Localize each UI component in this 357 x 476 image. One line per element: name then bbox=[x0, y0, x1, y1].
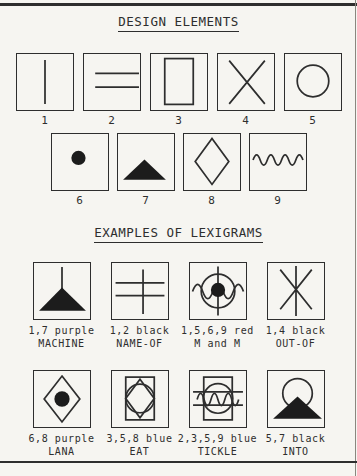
vertical-line-diagonal-cross-icon bbox=[268, 263, 324, 319]
design-elements-row-1: 1 2 3 4 bbox=[0, 53, 357, 127]
lexigram-name: NAME-OF bbox=[116, 337, 162, 350]
lexigram-eat: 3,5,8 blue EAT bbox=[111, 370, 169, 458]
lexigram-label: 3,5,8 blue EAT bbox=[111, 432, 169, 458]
lexigram-name: M and M bbox=[194, 337, 240, 350]
lexigram-box bbox=[189, 370, 247, 428]
vertical-line-two-horizontals-icon bbox=[112, 263, 168, 319]
lexigram-box bbox=[267, 262, 325, 320]
element-number: 1 bbox=[41, 115, 48, 127]
lexigram-box bbox=[33, 262, 91, 320]
lexigrams-row-2: 6,8 purple LANA 3,5,8 blue EAT bbox=[0, 370, 357, 458]
element-number: 9 bbox=[274, 195, 281, 207]
element-number: 5 bbox=[309, 115, 316, 127]
lexigrams-row-1: 1,7 purple MACHINE 1,2 black NAME-OF bbox=[0, 262, 357, 350]
lexigram-elements: 1,2 black bbox=[110, 324, 170, 337]
element-number: 8 bbox=[208, 195, 215, 207]
lexigram-elements: 6,8 purple bbox=[28, 432, 94, 445]
lexigram-name: TICKLE bbox=[198, 445, 238, 458]
element-box-7 bbox=[117, 133, 175, 191]
rect-circle-diamond-icon bbox=[112, 371, 168, 427]
lexigram-elements: 5,7 black bbox=[266, 432, 326, 445]
design-element-2: 2 bbox=[83, 53, 141, 127]
lexigram-box bbox=[189, 262, 247, 320]
element-number: 4 bbox=[242, 115, 249, 127]
two-horizontal-lines-icon bbox=[84, 54, 140, 110]
lexigram-elements: 2,3,5,9 blue bbox=[178, 432, 257, 445]
diagonal-cross-icon bbox=[218, 54, 274, 110]
lexigram-m-and-m: 1,5,6,9 red M and M bbox=[189, 262, 247, 350]
filled-dot-icon bbox=[52, 134, 108, 190]
element-number: 2 bbox=[108, 115, 115, 127]
circle-dot-line-wave-icon bbox=[190, 263, 246, 319]
lexigram-lana: 6,8 purple LANA bbox=[33, 370, 91, 458]
lexigram-label: 1,4 black OUT-OF bbox=[267, 324, 325, 350]
lexigram-label: 5,7 black INTO bbox=[267, 432, 325, 458]
lexigram-elements: 1,7 purple bbox=[28, 324, 94, 337]
lexigram-machine: 1,7 purple MACHINE bbox=[33, 262, 91, 350]
lexigram-name: INTO bbox=[282, 445, 308, 458]
diamond-with-dot-icon bbox=[34, 371, 90, 427]
vertical-line-icon bbox=[17, 54, 73, 110]
lexigram-out-of: 1,4 black OUT-OF bbox=[267, 262, 325, 350]
lexigram-elements: 1,4 black bbox=[266, 324, 326, 337]
lexigram-label: 2,3,5,9 blue TICKLE bbox=[189, 432, 247, 458]
lexigram-figure: DESIGN ELEMENTS 1 2 bbox=[0, 0, 357, 476]
circle-outline-icon bbox=[285, 54, 341, 110]
lexigram-label: 6,8 purple LANA bbox=[33, 432, 91, 458]
wavy-line-icon bbox=[250, 134, 306, 190]
design-element-9: 9 bbox=[249, 133, 307, 207]
design-element-8: 8 bbox=[183, 133, 241, 207]
rect-circle-lines-wave-icon bbox=[190, 371, 246, 427]
lexigram-name: OUT-OF bbox=[276, 337, 316, 350]
top-rule bbox=[0, 3, 357, 6]
lexigram-box bbox=[33, 370, 91, 428]
lexigram-elements: 3,5,8 blue bbox=[106, 432, 172, 445]
design-element-4: 4 bbox=[217, 53, 275, 127]
filled-triangle-icon bbox=[118, 134, 174, 190]
line-and-filled-triangle-icon bbox=[34, 263, 90, 319]
circle-with-filled-triangle-icon bbox=[268, 371, 324, 427]
element-box-5 bbox=[284, 53, 342, 111]
lexigram-name: EAT bbox=[130, 445, 150, 458]
lexigram-box bbox=[111, 262, 169, 320]
element-box-8 bbox=[183, 133, 241, 191]
lexigrams-title: EXAMPLES OF LEXIGRAMS bbox=[0, 225, 357, 243]
lexigram-name: MACHINE bbox=[38, 337, 84, 350]
design-elements-title: DESIGN ELEMENTS bbox=[0, 14, 357, 32]
lexigram-label: 1,7 purple MACHINE bbox=[33, 324, 91, 350]
lexigram-tickle: 2,3,5,9 blue TICKLE bbox=[189, 370, 247, 458]
element-box-4 bbox=[217, 53, 275, 111]
design-element-5: 5 bbox=[284, 53, 342, 127]
lexigram-into: 5,7 black INTO bbox=[267, 370, 325, 458]
lexigram-name: LANA bbox=[48, 445, 74, 458]
lexigram-box bbox=[111, 370, 169, 428]
lexigram-label: 1,5,6,9 red M and M bbox=[189, 324, 247, 350]
lexigram-label: 1,2 black NAME-OF bbox=[111, 324, 169, 350]
design-elements-row-2: 6 7 8 9 bbox=[0, 133, 357, 207]
element-number: 3 bbox=[175, 115, 182, 127]
design-element-6: 6 bbox=[51, 133, 109, 207]
element-box-9 bbox=[249, 133, 307, 191]
element-number: 6 bbox=[76, 195, 83, 207]
lexigram-name-of: 1,2 black NAME-OF bbox=[111, 262, 169, 350]
lexigram-box bbox=[267, 370, 325, 428]
rectangle-outline-icon bbox=[151, 54, 207, 110]
element-box-2 bbox=[83, 53, 141, 111]
element-box-1 bbox=[16, 53, 74, 111]
design-element-3: 3 bbox=[150, 53, 208, 127]
design-element-1: 1 bbox=[16, 53, 74, 127]
element-box-3 bbox=[150, 53, 208, 111]
element-number: 7 bbox=[142, 195, 149, 207]
diamond-outline-icon bbox=[184, 134, 240, 190]
element-box-6 bbox=[51, 133, 109, 191]
lexigram-elements: 1,5,6,9 red bbox=[181, 324, 254, 337]
design-element-7: 7 bbox=[117, 133, 175, 207]
bottom-rule bbox=[0, 461, 357, 463]
